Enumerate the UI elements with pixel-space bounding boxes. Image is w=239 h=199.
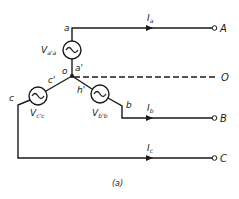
figure-caption: (a) <box>112 179 123 188</box>
node-label-neutral: o <box>62 66 68 76</box>
node-label-a-prime: a' <box>75 63 83 73</box>
wire-b-to-B <box>108 98 212 118</box>
three-phase-circuit-diagram: a a' o c' h' c b Va'a Vc'c Vb'b Ia Ib Ic… <box>0 0 239 199</box>
source-label-va: Va'a <box>41 45 56 56</box>
terminal-label-B: B <box>220 113 227 124</box>
terminal-label-O: O <box>221 72 229 83</box>
node-label-b: b <box>126 100 132 110</box>
node-label-a: a <box>64 23 70 33</box>
source-label-vb: Vb'b <box>92 108 108 119</box>
node-label-c-prime: c' <box>48 75 55 85</box>
current-arrow-ic-icon <box>146 155 153 161</box>
current-arrow-ib-icon <box>146 115 153 121</box>
node-label-c: c <box>9 93 14 103</box>
current-arrow-ia-icon <box>146 25 153 31</box>
terminal-A <box>212 26 217 31</box>
current-label-ia: Ia <box>147 13 154 24</box>
neutral-branch <box>70 74 216 78</box>
current-label-ic: Ic <box>147 143 154 154</box>
current-label-ib: Ib <box>147 103 154 114</box>
terminal-label-A: A <box>219 23 227 34</box>
wire-a-to-A <box>72 28 212 41</box>
wire-c-to-C <box>18 100 212 158</box>
terminal-label-C: C <box>220 153 227 164</box>
source-label-vc: Vc'c <box>30 108 45 119</box>
phase-a-branch <box>63 25 217 75</box>
terminal-B <box>212 116 217 121</box>
node-label-b-prime: h' <box>77 85 85 95</box>
terminal-C <box>212 156 217 161</box>
